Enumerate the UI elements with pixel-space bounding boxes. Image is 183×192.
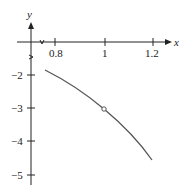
y-tick-label: −5 (11, 169, 23, 181)
y-axis-label: y (26, 8, 32, 20)
open-circle-point (102, 107, 106, 111)
x-tick-label: 1.2 (145, 47, 159, 59)
x-tick-label: 1 (102, 47, 108, 59)
y-tick-label: −2 (11, 69, 23, 81)
curve (45, 70, 152, 160)
chart: 0.8 1 1.2 x y −2 −3 −4 −5 (0, 0, 183, 192)
y-tick-label: −4 (11, 135, 23, 147)
y-axis-arrow-icon (28, 22, 34, 29)
x-axis-arrow-icon (165, 39, 172, 45)
x-axis-label: x (173, 36, 179, 48)
y-tick-label: −3 (11, 102, 23, 114)
x-tick-label: 0.8 (49, 47, 63, 59)
